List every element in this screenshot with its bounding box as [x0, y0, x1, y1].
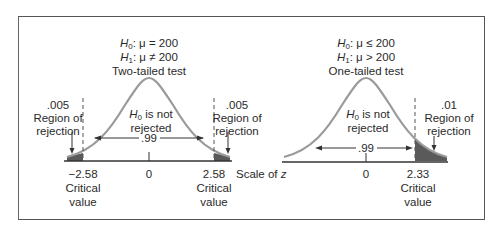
left-critical-label-1: Critical: [65, 182, 100, 194]
right-rejection-arrowhead: [226, 148, 231, 154]
arrow-head-left: [315, 146, 322, 151]
left-region-label-1: Region of: [33, 112, 83, 124]
left-alpha: .005: [47, 99, 69, 111]
right-critical-label-1: Critical: [196, 182, 231, 194]
critical-label-2: value: [404, 196, 432, 208]
two-tailed-panel: .99 H0: μ = 200 H1: μ ≠ 200 Two-tailed t…: [33, 37, 286, 208]
h1-left: H1: μ ≠ 200: [120, 51, 178, 65]
right-alpha: .005: [226, 99, 248, 111]
right-critical-value: 2.58: [203, 168, 225, 180]
left-critical-value: −2.58: [68, 168, 97, 180]
right-alpha: .01: [441, 99, 457, 111]
right-region-label-1: Region of: [212, 112, 262, 124]
hypothesis-test-diagram: .99 H0: μ = 200 H1: μ ≠ 200 Two-tailed t…: [0, 0, 502, 236]
region-label-1: Region of: [424, 112, 474, 124]
h1-right: H1: μ > 200: [337, 51, 395, 65]
h0-left: H0: μ = 200: [120, 37, 178, 51]
rejected-label: rejected: [348, 122, 389, 134]
one-tailed-panel: .99 H0: μ ≤ 200 H1: μ > 200 One-tailed t…: [282, 37, 474, 208]
left-rejection-arrowhead: [70, 148, 75, 154]
right-region-label-2: rejection: [215, 125, 258, 137]
zero-label: 0: [146, 168, 152, 180]
h0-right: H0: μ ≤ 200: [337, 37, 395, 51]
one-tailed-test-label: One-tailed test: [329, 65, 405, 77]
critical-value: 2.33: [407, 168, 429, 180]
region-label-2: rejection: [427, 125, 470, 137]
middle-area-label: .99: [358, 142, 374, 154]
arrow-head-right: [406, 146, 413, 151]
left-region-label-2: rejection: [36, 125, 79, 137]
zero-label: 0: [363, 168, 369, 180]
rejected-label: rejected: [131, 122, 172, 134]
two-tailed-test-label: Two-tailed test: [112, 65, 187, 77]
h0-not-label: H0 is not: [346, 108, 390, 122]
h0-not-label: H0 is not: [129, 108, 173, 122]
critical-label-1: Critical: [400, 182, 435, 194]
scale-of-z-label: Scale of z: [236, 168, 287, 180]
right-critical-label-2: value: [200, 196, 228, 208]
left-critical-label-2: value: [69, 196, 97, 208]
